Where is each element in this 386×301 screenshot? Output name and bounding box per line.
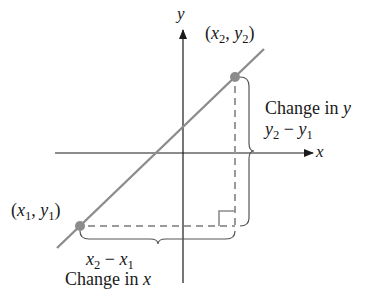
y2-var: y	[265, 119, 273, 139]
point-1-x-sub: 1	[25, 209, 31, 223]
change-in-y-caption-text: Change in	[265, 98, 343, 118]
point-2-label: (x2, y2)	[205, 24, 255, 45]
point-2-x-var: x	[211, 23, 219, 43]
change-in-y-caption-var: y	[343, 98, 351, 118]
minus-sign: −	[100, 249, 119, 269]
y-axis-label: y	[177, 5, 185, 22]
change-in-x-brace	[80, 231, 235, 244]
point-1-marker	[75, 221, 85, 231]
point-2-y-sub: 2	[242, 32, 248, 46]
change-in-y-expression: y2 − y1	[265, 120, 313, 141]
change-in-y-brace	[240, 77, 254, 226]
point-2-marker	[230, 72, 240, 82]
change-in-x-caption-var: x	[143, 269, 151, 289]
x-axis-label: x	[316, 143, 324, 160]
x2-var: x	[86, 249, 94, 269]
point-2-x-sub: 2	[219, 32, 225, 46]
change-in-y-caption: Change in y	[265, 99, 351, 117]
change-in-x-caption: Change in x	[65, 270, 151, 288]
point-1-x-var: x	[17, 200, 25, 220]
diagram-canvas	[0, 0, 386, 301]
right-angle-marker	[219, 211, 235, 226]
minus-sign: −	[279, 119, 298, 139]
point-1-y-sub: 1	[48, 209, 54, 223]
y1-sub: 1	[306, 128, 312, 142]
change-in-x-caption-text: Change in	[65, 269, 143, 289]
point-1-label: (x1, y1)	[11, 201, 61, 222]
